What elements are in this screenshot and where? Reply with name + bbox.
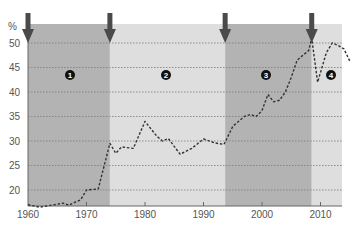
y-tick-label: 50 <box>9 38 21 49</box>
x-tick-label: 2010 <box>309 209 332 220</box>
y-axis-unit-label: % <box>8 21 17 32</box>
arrow-shaft <box>223 13 228 30</box>
y-axis-tick-labels: 20253035404550 <box>9 38 21 196</box>
y-tick-label: 25 <box>9 160 21 171</box>
x-tick-label: 1990 <box>192 209 215 220</box>
arrow-shaft <box>107 13 112 30</box>
badge-number: 1 <box>68 71 73 80</box>
x-tick-label: 1960 <box>17 209 40 220</box>
x-tick-label: 2000 <box>251 209 274 220</box>
region-2 <box>110 24 225 206</box>
period-regions <box>28 24 342 206</box>
badge-number: 3 <box>264 71 269 80</box>
x-tick-label: 1980 <box>134 209 157 220</box>
y-tick-label: 40 <box>9 87 21 98</box>
region-3 <box>225 24 312 206</box>
y-tick-label: 35 <box>9 111 21 122</box>
y-tick-label: 30 <box>9 136 21 147</box>
region-1 <box>28 24 110 206</box>
arrow-shaft <box>309 13 314 30</box>
line-chart: 20253035404550 196019701980199020002010 … <box>0 0 357 230</box>
badge-number: 2 <box>164 71 169 80</box>
x-tick-label: 1970 <box>75 209 98 220</box>
badge-number: 4 <box>329 71 334 80</box>
arrow-shaft <box>26 13 31 30</box>
y-tick-label: 45 <box>9 62 21 73</box>
y-tick-label: 20 <box>9 185 21 196</box>
